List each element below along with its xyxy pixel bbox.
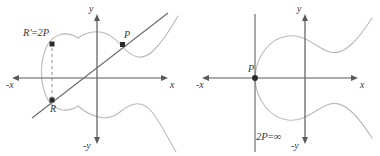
curve-upper-branch-right bbox=[255, 18, 372, 78]
elliptic-curve-plot-right bbox=[190, 0, 380, 156]
elliptic-curve-plot-left bbox=[0, 0, 190, 156]
axis-label-negative-x-right: -x bbox=[196, 80, 204, 90]
point-label-R-prime-equals-2P: R'=2P bbox=[23, 28, 49, 39]
x-axis-arrow-right-2 bbox=[351, 75, 358, 81]
curve-oval-component-left bbox=[42, 34, 79, 110]
y-axis-arrow-up bbox=[94, 14, 100, 21]
two-p-text: 2P bbox=[38, 27, 50, 38]
y-axis-arrow-down-2 bbox=[302, 137, 308, 144]
axis-label-x-left: x bbox=[170, 80, 174, 90]
y-axis-arrow-up-2 bbox=[302, 14, 308, 21]
result-label-2P-equals-infinity: 2P=∞ bbox=[256, 131, 281, 143]
point-marker-R-left[interactable] bbox=[50, 98, 55, 103]
axis-label-negative-x-left: -x bbox=[6, 80, 14, 90]
axis-label-negative-y-left: -y bbox=[83, 141, 91, 151]
point-marker-Rprime-left[interactable] bbox=[50, 42, 55, 47]
diagram-panel-right: -x x y -y P 2P=∞ bbox=[190, 0, 380, 156]
curve-lower-branch-right bbox=[255, 78, 372, 138]
y-axis-arrow-down bbox=[94, 137, 100, 144]
point-marker-P-left[interactable] bbox=[120, 42, 125, 47]
two-p-text-right: 2P bbox=[256, 131, 268, 142]
axis-label-x-right: x bbox=[360, 80, 364, 90]
r-prime-text: R' bbox=[23, 27, 32, 38]
diagram-panel-left: -x x y -y P R R'=2P bbox=[0, 0, 190, 156]
point-label-R-left: R bbox=[50, 104, 56, 114]
curve-lower-branch-left bbox=[78, 104, 176, 152]
point-marker-P-right[interactable] bbox=[252, 75, 258, 81]
figure-root: -x x y -y P R R'=2P bbox=[0, 0, 380, 156]
infinity-symbol: ∞ bbox=[274, 130, 282, 142]
axis-label-negative-y-right: -y bbox=[291, 141, 299, 151]
axis-label-y-left: y bbox=[89, 4, 93, 14]
point-label-P-right: P bbox=[248, 64, 254, 74]
axis-label-y-right: y bbox=[297, 4, 301, 14]
point-label-P-left: P bbox=[124, 30, 130, 40]
x-axis-arrow-right bbox=[161, 75, 168, 81]
